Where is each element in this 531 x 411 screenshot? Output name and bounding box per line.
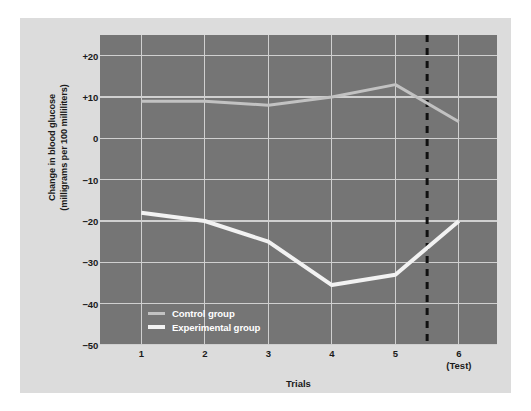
y-tick-0: 0 — [52, 133, 98, 144]
x-tick-4: 4 — [302, 348, 362, 359]
x-tick-6: 6(Test) — [429, 348, 489, 371]
y-axis-tick-labels: +20+100−10−20−30−40−50 — [42, 35, 98, 345]
y-tick-+20: +20 — [52, 50, 98, 61]
x-tick-1: 1 — [111, 348, 171, 359]
x-axis-tick-labels: 123456(Test) — [100, 348, 497, 382]
figure-card: Change in blood glucose (milligrams per … — [20, 18, 511, 393]
experimental-swatch — [148, 325, 165, 329]
plot-area: Control group Experimental group — [100, 35, 497, 345]
y-tick-−10: −10 — [52, 174, 98, 185]
series-line-experimental-group — [141, 213, 459, 285]
y-tick-−40: −40 — [52, 298, 98, 309]
x-tick-3: 3 — [238, 348, 298, 359]
x-axis-title: Trials — [100, 378, 497, 389]
x-tick-label: 1 — [139, 348, 144, 359]
x-tick-sublabel: (Test) — [429, 360, 489, 371]
plot-svg — [100, 35, 497, 345]
y-tick-−20: −20 — [52, 216, 98, 227]
x-tick-label: 2 — [202, 348, 207, 359]
x-tick-5: 5 — [365, 348, 425, 359]
control-swatch — [148, 312, 165, 315]
x-tick-label: 5 — [393, 348, 398, 359]
legend-label-control: Control group — [172, 308, 235, 319]
legend-item-experimental: Experimental group — [148, 321, 260, 333]
x-tick-label: 4 — [329, 348, 334, 359]
x-tick-2: 2 — [175, 348, 235, 359]
y-tick-−30: −30 — [52, 257, 98, 268]
y-tick-−50: −50 — [52, 340, 98, 351]
x-tick-label: 6 — [456, 348, 461, 359]
x-tick-label: 3 — [266, 348, 271, 359]
series-line-control-group — [141, 85, 459, 122]
chart-legend: Control group Experimental group — [148, 307, 260, 335]
legend-label-experimental: Experimental group — [172, 322, 260, 333]
y-tick-+10: +10 — [52, 92, 98, 103]
legend-item-control: Control group — [148, 307, 260, 319]
